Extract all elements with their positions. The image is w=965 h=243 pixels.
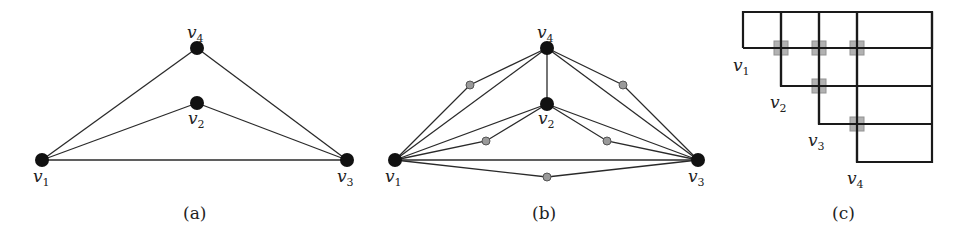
- rect-v3: [819, 12, 932, 124]
- label-v4: v4: [537, 22, 554, 45]
- caption-b: (b): [532, 203, 556, 223]
- panel-b: v1 v4 v2 v3 (b): [385, 22, 705, 223]
- panel-a: v1 v4 v2 v3 (a): [33, 22, 354, 223]
- edge-v4-v3: [197, 48, 347, 160]
- edge-v2-v3: [197, 103, 347, 160]
- figure-canvas: v1 v4 v2 v3 (a) v1 v4 v2 v3 (b): [0, 0, 965, 243]
- subdivision-point: [482, 137, 490, 145]
- label-v1: v1: [385, 166, 402, 189]
- label-v3: v3: [688, 166, 705, 189]
- label-v2: v2: [188, 108, 205, 131]
- label-v2: v2: [770, 92, 787, 115]
- subdivision-point: [466, 81, 474, 89]
- subdivision-point: [603, 137, 611, 145]
- label-v3: v3: [337, 166, 354, 189]
- label-v1: v1: [733, 55, 750, 78]
- label-v2: v2: [538, 108, 555, 131]
- edge-v1-v2: [395, 104, 547, 160]
- subdivision-point: [619, 81, 627, 89]
- edge-v1-v4: [395, 48, 547, 160]
- panel-c: v1 v2 v3 v4 (c): [733, 12, 932, 223]
- vertex-v3: [340, 153, 354, 167]
- label-v3: v3: [808, 130, 825, 153]
- edge-v4-v3: [547, 48, 698, 160]
- vertex-v1: [388, 153, 402, 167]
- edge-v1-v2: [42, 103, 197, 160]
- edge-v1-v4: [42, 48, 197, 160]
- label-v4: v4: [847, 168, 864, 191]
- vertex-v3: [691, 153, 705, 167]
- caption-a: (a): [183, 203, 206, 223]
- label-v1: v1: [33, 166, 50, 189]
- caption-c: (c): [832, 203, 855, 223]
- edge-v2-v3: [547, 104, 698, 160]
- label-v4: v4: [187, 22, 204, 45]
- subdivision-point: [543, 173, 551, 181]
- vertex-v1: [35, 153, 49, 167]
- rect-v1: [743, 12, 932, 48]
